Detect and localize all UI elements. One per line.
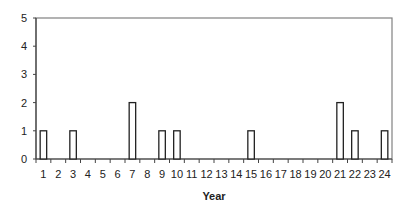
bar [352,131,359,159]
y-tick-label: 4 [21,40,27,52]
x-tick-label: 3 [70,168,76,180]
x-tick-label: 18 [289,168,301,180]
x-tick-label: 12 [200,168,212,180]
x-tick-label: 17 [275,168,287,180]
x-tick-label: 10 [171,168,183,180]
y-tick-label: 5 [21,12,27,24]
x-tick-label: 8 [144,168,150,180]
bar [381,131,388,159]
y-tick-label: 1 [21,125,27,137]
x-tick-label: 9 [159,168,165,180]
x-tick-label: 2 [55,168,61,180]
x-tick-label: 14 [230,168,242,180]
x-tick-label: 6 [115,168,121,180]
x-tick-label: 24 [378,168,390,180]
bars [40,103,388,159]
x-tick-label: 23 [364,168,376,180]
y-axis: 012345 [21,12,36,165]
bar [174,131,181,159]
x-tick-label: 20 [319,168,331,180]
x-tick-label: 15 [245,168,257,180]
x-tick-label: 21 [334,168,346,180]
x-tick-label: 5 [100,168,106,180]
y-tick-label: 0 [21,153,27,165]
x-axis-title: Year [202,190,226,202]
y-tick-label: 2 [21,97,27,109]
y-tick-label: 3 [21,68,27,80]
x-tick-label: 16 [260,168,272,180]
bar [337,103,344,159]
x-tick-label: 11 [186,168,197,180]
bar-chart: 012345 123456789101112131415161718192021… [0,0,413,213]
x-tick-label: 1 [40,168,46,180]
x-axis: 123456789101112131415161718192021222324 [36,159,392,180]
x-tick-label: 22 [349,168,361,180]
bar [159,131,166,159]
bar [40,131,47,159]
bar [248,131,255,159]
x-tick-label: 13 [215,168,227,180]
x-tick-label: 19 [304,168,316,180]
bar [70,131,77,159]
bar [129,103,136,159]
x-tick-label: 7 [129,168,135,180]
x-tick-label: 4 [85,168,91,180]
